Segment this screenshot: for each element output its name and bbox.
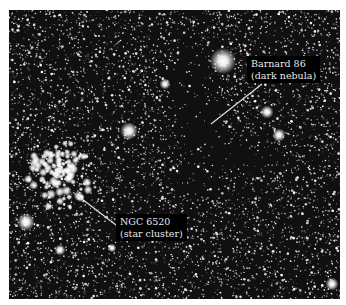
barnard-86-leader-line <box>211 84 262 124</box>
barnard-86-name: Barnard 86 <box>251 58 316 70</box>
ngc-6520-type: (star cluster) <box>120 228 183 240</box>
leader-lines <box>0 0 346 305</box>
barnard-86-label: Barnard 86 (dark nebula) <box>247 56 320 83</box>
ngc-6520-leader-line <box>78 196 116 225</box>
ngc-6520-label: NGC 6520 (star cluster) <box>116 214 187 241</box>
barnard-86-type: (dark nebula) <box>251 70 316 82</box>
ngc-6520-name: NGC 6520 <box>120 216 183 228</box>
